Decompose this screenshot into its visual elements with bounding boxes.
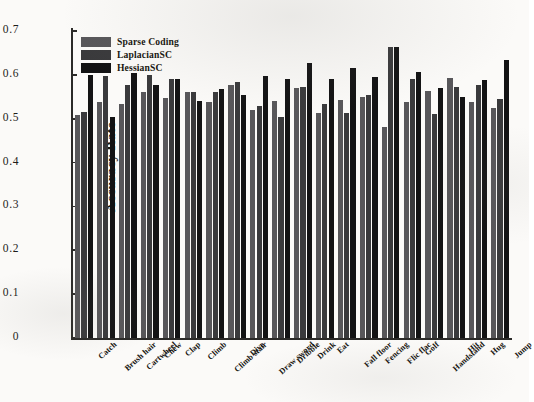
bar-group: [270, 31, 292, 338]
bar: [482, 80, 487, 338]
bar: [294, 88, 299, 338]
bar: [213, 92, 218, 338]
legend-swatch: [81, 37, 111, 47]
x-axis-tick-label: Clap: [183, 340, 202, 358]
bar-group: [226, 31, 248, 338]
bar: [476, 85, 481, 338]
bar: [81, 112, 86, 338]
y-axis-tick-label: 0.3: [3, 198, 19, 210]
bar: [372, 77, 377, 338]
bar-group: [358, 31, 380, 338]
x-axis-tick-label: Jump: [512, 340, 533, 360]
bar: [425, 91, 430, 338]
bar: [344, 113, 349, 338]
bar: [307, 63, 312, 338]
bar: [235, 82, 240, 338]
x-axis-tick-label: Chew: [162, 340, 183, 360]
bar: [366, 95, 371, 338]
bar: [125, 85, 130, 338]
bar: [454, 87, 459, 338]
bar: [191, 92, 196, 338]
bar-series-container: [73, 31, 511, 338]
legend-label: HessianSC: [117, 62, 163, 73]
legend-item[interactable]: HessianSC: [81, 62, 179, 74]
bar-group: [423, 31, 445, 338]
bar-group: [248, 31, 270, 338]
y-axis-tick-label: 0.4: [3, 155, 19, 167]
y-axis-tick-label: 0.7: [3, 23, 19, 35]
bar: [350, 68, 355, 338]
bar: [103, 76, 108, 338]
bar: [263, 76, 268, 338]
bar-group: [489, 31, 511, 338]
bar: [250, 110, 255, 338]
bar: [416, 72, 421, 338]
y-axis-tick-label: 0.5: [3, 111, 19, 123]
bar: [432, 114, 437, 338]
bar: [147, 75, 152, 338]
bar: [394, 47, 399, 338]
bar: [322, 104, 327, 338]
bar: [185, 92, 190, 338]
bar: [388, 47, 393, 338]
bar: [241, 95, 246, 338]
bar-group: [445, 31, 467, 338]
chart-legend: Sparse CodingLaplacianSCHessianSC: [81, 36, 179, 75]
bar-group: [380, 31, 402, 338]
bar: [447, 78, 452, 339]
x-axis-tick-label: Catch: [96, 340, 118, 361]
bar-group: [292, 31, 314, 338]
bar: [131, 73, 136, 338]
bar: [272, 101, 277, 338]
y-axis-tick-label: 0.1: [3, 286, 19, 298]
bar: [75, 115, 80, 338]
bar: [460, 97, 465, 338]
legend-item[interactable]: LaplacianSC: [81, 49, 179, 61]
legend-label: LaplacianSC: [117, 49, 172, 60]
bar-group: [467, 31, 489, 338]
bar-group: [336, 31, 358, 338]
bar: [382, 127, 387, 338]
bar: [169, 79, 174, 338]
bar: [153, 85, 158, 338]
bar-group: [139, 31, 161, 338]
bar: [404, 102, 409, 338]
legend-swatch: [81, 50, 111, 60]
bar-group: [117, 31, 139, 338]
bar-group: [73, 31, 95, 338]
bar: [438, 88, 443, 338]
x-axis-tick-labels: CatchBrush hairCartwheelChewClapClimbCli…: [73, 340, 511, 400]
x-axis-tick-label: Climb: [206, 340, 229, 362]
bar: [97, 102, 102, 338]
legend-swatch: [81, 63, 111, 73]
bar: [491, 108, 496, 338]
x-axis-tick-label: Hug: [489, 340, 506, 357]
bar: [316, 113, 321, 338]
bar: [175, 79, 180, 338]
bar-group: [402, 31, 424, 338]
bar: [497, 99, 502, 338]
bar: [119, 104, 124, 338]
bar-group: [95, 31, 117, 338]
bar: [88, 75, 93, 338]
y-axis-tick-label: 0.2: [3, 242, 19, 254]
legend-item[interactable]: Sparse Coding: [81, 36, 179, 48]
bar: [257, 106, 262, 338]
bar: [410, 79, 415, 338]
bar: [141, 92, 146, 338]
bar: [228, 85, 233, 338]
y-axis-tick-label: 0: [13, 330, 19, 342]
bar-group: [183, 31, 205, 338]
bar-group: [161, 31, 183, 338]
bar: [197, 101, 202, 338]
bar-group: [314, 31, 336, 338]
y-axis-tick-label: 0.6: [3, 67, 19, 79]
bar: [219, 89, 224, 338]
bar: [504, 60, 509, 338]
legend-label: Sparse Coding: [117, 36, 179, 47]
bar: [300, 87, 305, 338]
bar: [110, 117, 115, 338]
bar: [278, 117, 283, 338]
bar: [469, 102, 474, 338]
